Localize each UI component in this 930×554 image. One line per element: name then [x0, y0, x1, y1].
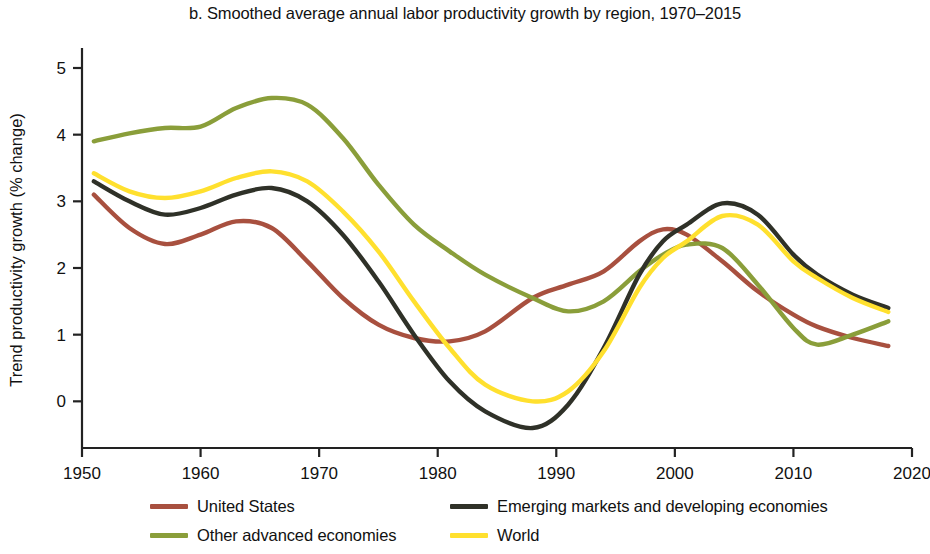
legend-item[interactable]: World	[450, 521, 828, 550]
x-tick-label: 1980	[419, 464, 457, 483]
legend-color-swatch	[150, 533, 188, 538]
y-axis-ticks: 012345	[57, 59, 82, 411]
x-tick-label: 2020	[893, 464, 930, 483]
legend-label: World	[497, 526, 539, 545]
series-line	[94, 181, 888, 428]
y-axis-label: Trend productivity growth (% change)	[7, 113, 25, 387]
y-tick-label: 2	[57, 259, 66, 278]
x-tick-label: 1960	[182, 464, 220, 483]
x-tick-label: 2010	[775, 464, 813, 483]
y-tick-label: 3	[57, 192, 66, 211]
legend-column: United StatesOther advanced economies	[150, 492, 396, 550]
x-tick-label: 1950	[63, 464, 101, 483]
y-tick-label: 5	[57, 59, 66, 78]
y-tick-label: 0	[57, 392, 66, 411]
legend-label: United States	[197, 497, 295, 516]
plot-area: 012345 19501960197019801990200020102020 …	[0, 0, 930, 554]
legend-label: Other advanced economies	[197, 526, 396, 545]
legend-item[interactable]: United States	[150, 492, 396, 521]
legend-label: Emerging markets and developing economie…	[497, 497, 828, 516]
legend-color-swatch	[150, 504, 188, 509]
series-line	[94, 195, 888, 346]
series-lines	[94, 98, 888, 428]
y-tick-label: 1	[57, 326, 66, 345]
legend-color-swatch	[450, 533, 488, 538]
x-tick-label: 2000	[656, 464, 694, 483]
legend-color-swatch	[450, 504, 488, 509]
chart-legend: United StatesOther advanced economiesEme…	[150, 492, 930, 552]
chart-figure: b. Smoothed average annual labor product…	[0, 0, 930, 554]
x-axis-ticks: 19501960197019801990200020102020	[63, 448, 930, 483]
legend-item[interactable]: Other advanced economies	[150, 521, 396, 550]
legend-item[interactable]: Emerging markets and developing economie…	[450, 492, 828, 521]
x-tick-label: 1990	[537, 464, 575, 483]
x-tick-label: 1970	[300, 464, 338, 483]
series-line	[94, 98, 888, 345]
y-tick-label: 4	[57, 126, 66, 145]
legend-column: Emerging markets and developing economie…	[450, 492, 828, 550]
